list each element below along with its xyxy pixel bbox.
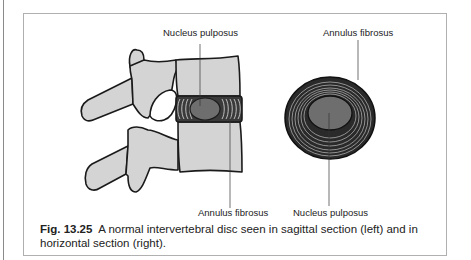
figure-number: Fig. 13.25	[40, 223, 92, 235]
figure-illustration	[0, 0, 471, 260]
label-annulus-fibrosus-sagittal: Annulus fibrosus	[198, 207, 268, 218]
label-nucleus-pulposus-sagittal: Nucleus pulposus	[163, 27, 238, 38]
label-annulus-fibrosus-horizontal: Annulus fibrosus	[323, 27, 393, 38]
figure-caption: Fig. 13.25 A normal intervertebral disc …	[40, 222, 440, 250]
horizontal-section-illustration	[285, 77, 375, 159]
sagittal-section-illustration	[81, 50, 242, 192]
horizontal-nucleus-pulposus	[308, 96, 352, 130]
label-nucleus-pulposus-horizontal: Nucleus pulposus	[293, 207, 368, 218]
sagittal-nucleus-pulposus	[190, 98, 220, 120]
figure-caption-text: A normal intervertebral disc seen in sag…	[40, 223, 418, 249]
